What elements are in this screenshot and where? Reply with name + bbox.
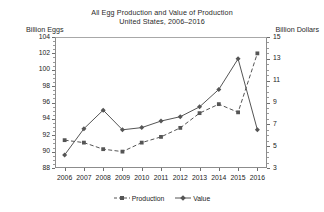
y-minor-tick-left [53, 57, 55, 58]
y-minor-tick-left [53, 94, 55, 95]
y-minor-tick-left [53, 62, 55, 63]
y-minor-tick-right [267, 119, 269, 120]
y-tick-left [52, 70, 55, 71]
y-tick-left [52, 37, 55, 38]
y-minor-tick-right [267, 97, 269, 98]
egg-production-chart: All Egg Production and Value of Producti… [0, 0, 324, 212]
y-tick-right [267, 59, 270, 60]
y-minor-tick-right [267, 163, 269, 164]
y-tick-left [52, 119, 55, 120]
y-minor-tick-left [53, 115, 55, 116]
y-label-right: 7 [273, 121, 277, 128]
x-tick [161, 168, 162, 171]
y-minor-tick-right [267, 113, 269, 114]
y-tick-right [267, 146, 270, 147]
y-tick-left [52, 53, 55, 54]
y-label-left: 102 [28, 50, 50, 57]
y-minor-tick-right [267, 70, 269, 71]
y-label-right: 9 [273, 99, 277, 106]
x-tick [84, 168, 85, 171]
y-label-left: 94 [28, 115, 50, 122]
y-minor-tick-left [53, 164, 55, 165]
y-minor-tick-right [267, 75, 269, 76]
x-tick [180, 168, 181, 171]
y-minor-tick-right [267, 141, 269, 142]
x-tick [142, 168, 143, 171]
y-minor-tick-left [53, 107, 55, 108]
y-label-right: 11 [273, 77, 280, 84]
y-tick-left [52, 103, 55, 104]
legend-label-value: Value [193, 195, 210, 202]
y-label-right: 5 [273, 143, 277, 150]
y-minor-tick-right [267, 135, 269, 136]
legend-item-production: Production [114, 194, 165, 202]
y-label-right: 15 [273, 34, 281, 41]
y-label-left: 96 [28, 99, 50, 106]
y-tick-left [52, 152, 55, 153]
y-minor-tick-left [53, 90, 55, 91]
y-minor-tick-right [267, 42, 269, 43]
y-minor-tick-left [53, 49, 55, 50]
y-minor-tick-left [53, 74, 55, 75]
y-minor-tick-left [53, 139, 55, 140]
x-tick [219, 168, 220, 171]
x-tick [238, 168, 239, 171]
y-minor-tick-right [267, 92, 269, 93]
y-tick-right [267, 168, 270, 169]
y-minor-tick-left [53, 123, 55, 124]
y-minor-tick-left [53, 66, 55, 67]
y-minor-tick-right [267, 86, 269, 87]
y-label-right: 3 [273, 165, 277, 172]
y-tick-right [267, 81, 270, 82]
x-tick [122, 168, 123, 171]
x-tick [65, 168, 66, 171]
y-label-left: 88 [28, 165, 50, 172]
y-tick-right [267, 124, 270, 125]
legend-label-production: Production [132, 195, 165, 202]
y-minor-tick-left [53, 111, 55, 112]
y-minor-tick-left [53, 156, 55, 157]
x-tick [103, 168, 104, 171]
y-minor-tick-right [267, 53, 269, 54]
y-tick-left [52, 168, 55, 169]
y-minor-tick-left [53, 78, 55, 79]
legend-item-value: Value [175, 194, 210, 202]
x-tick [200, 168, 201, 171]
chart-legend: Production Value [0, 194, 324, 202]
y-minor-tick-left [53, 148, 55, 149]
y-label-left: 92 [28, 132, 50, 139]
y-label-left: 90 [28, 148, 50, 155]
y-minor-tick-left [53, 41, 55, 42]
y-minor-tick-left [53, 160, 55, 161]
y-minor-tick-left [53, 82, 55, 83]
y-minor-tick-left [53, 143, 55, 144]
y-tick-left [52, 135, 55, 136]
y-label-left: 98 [28, 83, 50, 90]
x-label: 2016 [244, 175, 270, 182]
y-minor-tick-left [53, 98, 55, 99]
y-axis-right-title: Billion Dollars [275, 25, 319, 34]
y-label-right: 13 [273, 55, 281, 62]
legend-swatch-value [175, 194, 191, 202]
legend-swatch-production [114, 194, 130, 202]
plot-frame [55, 37, 267, 168]
y-tick-left [52, 86, 55, 87]
plot-area [55, 37, 267, 168]
x-tick [257, 168, 258, 171]
y-minor-tick-right [267, 48, 269, 49]
y-minor-tick-right [267, 152, 269, 153]
y-minor-tick-right [267, 157, 269, 158]
y-label-left: 100 [28, 66, 50, 73]
y-minor-tick-left [53, 127, 55, 128]
y-minor-tick-right [267, 64, 269, 65]
y-minor-tick-left [53, 131, 55, 132]
y-tick-right [267, 37, 270, 38]
y-minor-tick-left [53, 45, 55, 46]
y-tick-right [267, 103, 270, 104]
y-label-left: 104 [28, 34, 50, 41]
y-minor-tick-right [267, 130, 269, 131]
y-minor-tick-right [267, 108, 269, 109]
